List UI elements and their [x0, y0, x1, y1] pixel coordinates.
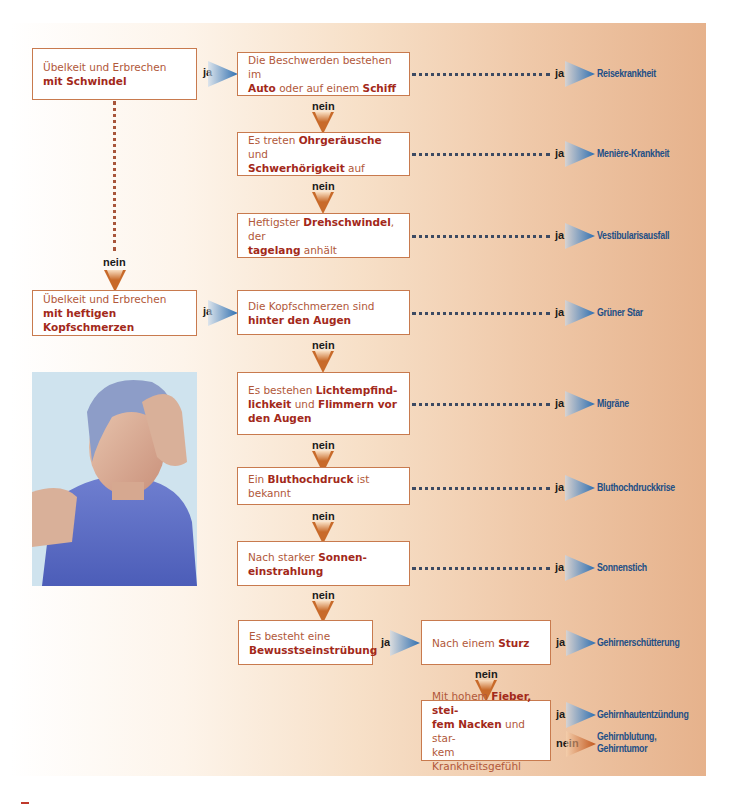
start-node-text: Übelkeit und Erbrechen — [43, 293, 166, 305]
result-meniere: Menière-Krankheit — [597, 148, 669, 160]
question-node-bewusstseinstruebung: Es besteht eine Bewusstseinstrübung — [238, 620, 373, 665]
yes-label: ja — [555, 147, 564, 159]
question-node-hinter-augen: Die Kopfschmerzen sind hinter den Augen — [237, 290, 410, 335]
photo-woman-headache — [32, 372, 197, 586]
result-gruener-star: Grüner Star — [597, 307, 643, 319]
start-node-schwindel: Übelkeit und Erbrechen mit Schwindel — [32, 48, 197, 100]
arrow-down-icon — [104, 270, 126, 292]
connector-dotted — [412, 235, 550, 238]
question-node-ohrgeraeusche: Es treten Ohrgeräusche und Schwerhörigke… — [237, 132, 410, 176]
result-gehirnblutung-tumor: Gehirnblutung, Gehirntumor — [597, 731, 694, 755]
result-sonnenstich: Sonnenstich — [597, 562, 647, 574]
no-label: nein — [475, 668, 498, 680]
no-label: nein — [312, 510, 335, 522]
yes-label: ja — [555, 397, 564, 409]
arrow-down-icon — [312, 192, 334, 214]
question-node-drehschwindel: Heftigster Drehschwindel, der tagelang a… — [237, 213, 410, 258]
start-node-bold: mit Schwindel — [43, 75, 127, 87]
question-node-lichtempfindlichkeit: Es bestehen Lichtempfind-lichkeit und Fl… — [237, 372, 410, 435]
no-label: nein — [312, 100, 335, 112]
connector-dotted — [412, 73, 550, 76]
no-label: nein — [312, 180, 335, 192]
start-node-kopfschmerzen: Übelkeit und Erbrechen mit heftigen Kopf… — [32, 290, 197, 336]
arrow-down-icon — [312, 112, 334, 134]
connector-dotted — [412, 153, 550, 156]
no-label: nein — [312, 439, 335, 451]
question-node-fieber: Mit hohem Fieber, stei-fem Nacken und st… — [421, 700, 551, 761]
yes-label: ja — [556, 708, 565, 720]
result-vestibularisausfall: Vestibularisausfall — [597, 230, 669, 242]
result-bluthochdruckkrise: Bluthochdruckkrise — [597, 482, 675, 494]
connector-dotted — [412, 487, 550, 490]
result-gehirnhautentzuendung: Gehirnhautentzündung — [597, 709, 689, 721]
result-gehirnerschuetterung: Gehirnerschütterung — [597, 637, 680, 649]
no-label: nein — [312, 339, 335, 351]
yes-label: ja — [555, 481, 564, 493]
result-reisekrankheit: Reisekrankheit — [597, 68, 656, 80]
no-label: nein — [312, 589, 335, 601]
yes-label: ja — [556, 636, 565, 648]
connector-dotted-vertical — [113, 101, 116, 251]
yes-label: ja — [555, 306, 564, 318]
question-node-bluthochdruck: Ein Bluthochdruck ist bekannt — [237, 467, 410, 505]
start-node-text: Übelkeit und Erbrechen — [43, 61, 166, 73]
yes-label: ja — [381, 636, 390, 648]
question-node-sturz: Nach einem Sturz — [421, 620, 551, 665]
yes-label: ja — [555, 561, 564, 573]
yes-label: ja — [555, 229, 564, 241]
arrow-down-icon — [312, 351, 334, 373]
result-migraene: Migräne — [597, 398, 629, 410]
page-marker-dash — [21, 802, 29, 804]
connector-dotted — [412, 312, 550, 315]
start-node-bold: mit heftigen Kopfschmerzen — [43, 307, 134, 333]
no-label: nein — [103, 256, 126, 268]
yes-label: ja — [555, 67, 564, 79]
connector-dotted — [412, 567, 550, 570]
connector-dotted — [412, 403, 550, 406]
question-node-sonneneinstrahlung: Nach starker Sonnen-einstrahlung — [237, 541, 410, 586]
question-node-auto-schiff: Die Beschwerden bestehen im Auto oder au… — [237, 52, 410, 96]
